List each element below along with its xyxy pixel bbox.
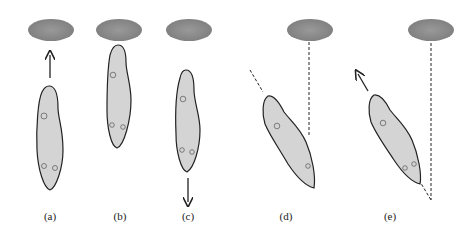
dashed-axis-line xyxy=(250,70,263,92)
object-ellipse xyxy=(287,19,333,41)
panel-e xyxy=(358,19,454,200)
panel-label-d: (d) xyxy=(280,210,293,222)
panel-label-c: (c) xyxy=(182,210,194,222)
object-ellipse xyxy=(28,19,74,41)
panel-d xyxy=(250,19,333,188)
panel-label-a: (a) xyxy=(44,210,56,222)
paramecium-body xyxy=(107,45,131,148)
figure-canvas xyxy=(0,0,476,240)
arrow-up-left-icon xyxy=(358,74,368,91)
object-ellipse xyxy=(166,19,212,41)
paramecium-body xyxy=(369,95,420,184)
panel-label-b: (b) xyxy=(114,210,127,222)
panel-a xyxy=(28,19,74,190)
object-ellipse xyxy=(408,19,454,41)
object-ellipse xyxy=(96,19,142,41)
panel-c xyxy=(166,19,212,202)
panel-b xyxy=(96,19,142,148)
paramecium-body xyxy=(263,96,314,188)
paramecium-body xyxy=(37,86,63,190)
panel-label-e: (e) xyxy=(384,210,396,222)
dashed-axis-line xyxy=(419,180,431,200)
paramecium-body xyxy=(176,70,200,172)
